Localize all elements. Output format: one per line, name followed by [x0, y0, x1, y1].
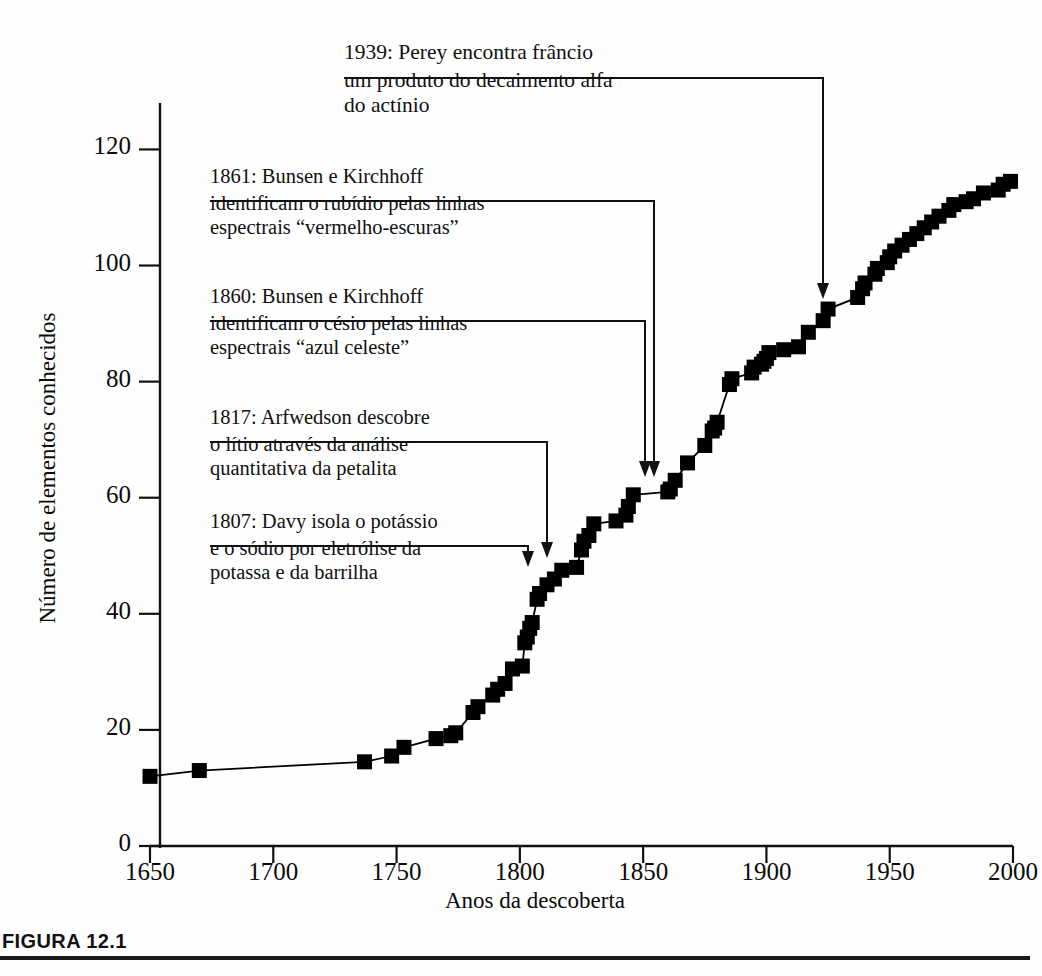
data-point: [710, 415, 725, 430]
annotation-1860-body: identificam o césio pelas linhas espectr…: [208, 310, 469, 360]
x-tick-label-1900: 1900: [711, 858, 821, 886]
annotation-1817-body: o lítio através da análise quantitativa …: [208, 431, 432, 481]
data-point: [761, 345, 776, 360]
data-point: [498, 676, 513, 691]
data-point: [801, 325, 816, 340]
annotation-1807-head: 1807: Davy isola o potássio: [208, 510, 440, 535]
annotation-1861-body-line-2: espectrais “vermelho-escuras”: [210, 216, 484, 240]
y-tick-label-0: 0: [61, 829, 131, 857]
annotation-1807-body-line-1: e o sódio por eletrólise da: [210, 537, 438, 561]
data-point: [680, 455, 695, 470]
figure-caption-label: FIGURA 12.1: [0, 930, 1030, 953]
annotation-1861-body: identificam o rubídio pelas linhas espec…: [208, 190, 486, 240]
x-tick-label-1800: 1800: [465, 858, 575, 886]
data-point: [697, 438, 712, 453]
annotation-1861: 1861: Bunsen e Kirchhoff identificam o r…: [208, 165, 486, 240]
annotation-1860-body-line-1: identificam o césio pelas linhas: [210, 312, 467, 336]
figure-caption: FIGURA 12.1: [0, 930, 1030, 960]
y-tick-label-20: 20: [61, 713, 131, 741]
y-axis-title: Número de elementos conhecidos: [35, 248, 61, 688]
figure-caption-rule: [0, 956, 1030, 960]
annotation-1939: 1939: Perey encontra frâncio um produto …: [342, 40, 615, 118]
y-tick-label-40: 40: [61, 597, 131, 625]
x-tick-label-2000: 2000: [958, 858, 1042, 886]
data-point: [821, 302, 836, 317]
annotation-1939-body-line-1: um produto do decaimento alfa: [344, 68, 613, 93]
data-point: [626, 487, 641, 502]
data-point: [586, 516, 601, 531]
data-point: [192, 763, 207, 778]
annotation-1817: 1817: Arfwedson descobre o lítio através…: [208, 406, 432, 481]
leader-arrow-1817: [541, 542, 553, 558]
data-point: [554, 563, 569, 578]
x-tick-label-1700: 1700: [218, 858, 328, 886]
y-tick-label-80: 80: [61, 365, 131, 393]
data-point: [668, 473, 683, 488]
y-tick-label-120: 120: [61, 132, 131, 160]
data-point: [976, 185, 991, 200]
data-point: [569, 560, 584, 575]
annotation-1939-body: um produto do decaimento alfa do actínio: [342, 66, 615, 118]
annotation-1861-body-line-1: identificam o rubídio pelas linhas: [210, 192, 484, 216]
x-tick-label-1950: 1950: [835, 858, 945, 886]
annotation-1860-head: 1860: Bunsen e Kirchhoff: [208, 285, 469, 310]
data-point: [357, 754, 372, 769]
annotation-1817-body-line-1: o lítio através da análise: [210, 433, 430, 457]
x-tick-label-1750: 1750: [342, 858, 452, 886]
annotation-1807-body: e o sódio por eletrólise da potassa e da…: [208, 535, 440, 585]
annotation-1939-body-line-2: do actínio: [344, 93, 613, 118]
data-point: [396, 740, 411, 755]
data-point: [429, 731, 444, 746]
data-point: [1003, 174, 1018, 189]
annotation-1860-body-line-2: espectrais “azul celeste”: [210, 336, 467, 360]
x-axis-title: Anos da descoberta: [355, 888, 715, 914]
data-point: [776, 342, 791, 357]
x-tick-label-1850: 1850: [588, 858, 698, 886]
leader-arrow-1860: [639, 461, 651, 477]
data-point: [525, 615, 540, 630]
annotation-1817-body-line-2: quantitativa da petalita: [210, 457, 430, 481]
annotation-1861-head: 1861: Bunsen e Kirchhoff: [208, 165, 486, 190]
data-point: [143, 769, 158, 784]
leader-arrow-1939: [817, 283, 829, 299]
annotation-1860: 1860: Bunsen e Kirchhoff identificam o c…: [208, 285, 469, 360]
data-point: [791, 339, 806, 354]
annotation-1807-body-line-2: potassa e da barrilha: [210, 561, 438, 585]
x-tick-label-1650: 1650: [95, 858, 205, 886]
data-point: [470, 699, 485, 714]
data-point: [448, 725, 463, 740]
y-tick-label-100: 100: [61, 249, 131, 277]
annotation-1817-head: 1817: Arfwedson descobre: [208, 406, 432, 431]
data-point: [515, 659, 530, 674]
annotation-1807: 1807: Davy isola o potássio e o sódio po…: [208, 510, 440, 585]
data-point: [724, 371, 739, 386]
y-tick-label-60: 60: [61, 481, 131, 509]
annotation-1939-head: 1939: Perey encontra frâncio: [342, 40, 615, 66]
leader-arrow-1807: [522, 551, 534, 567]
y-axis-ticks: [139, 149, 160, 846]
